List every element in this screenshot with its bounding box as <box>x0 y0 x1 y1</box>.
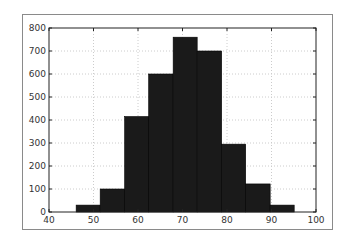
y-tick-label: 800 <box>29 23 46 33</box>
x-tick-label: 50 <box>88 215 100 225</box>
histogram-bar <box>222 144 246 212</box>
histogram-bar <box>246 184 270 212</box>
x-tick-label: 90 <box>266 215 278 225</box>
histogram-bar <box>149 74 173 212</box>
x-tick-label: 60 <box>132 215 144 225</box>
y-tick-label: 300 <box>29 138 46 148</box>
x-axis-tick-labels: 405060708090100 <box>43 215 325 225</box>
y-tick-label: 600 <box>29 69 46 79</box>
histogram-chart: 405060708090100 010020030040050060070080… <box>0 0 351 244</box>
x-tick-label: 100 <box>307 215 324 225</box>
histogram-bar <box>270 205 294 212</box>
histogram-bar <box>76 205 100 212</box>
histogram-bars <box>76 37 294 212</box>
x-tick-label: 70 <box>177 215 189 225</box>
y-tick-label: 700 <box>29 46 46 56</box>
histogram-bar <box>197 51 221 212</box>
y-tick-label: 500 <box>29 92 46 102</box>
x-tick-label: 80 <box>221 215 233 225</box>
histogram-bar <box>125 117 149 212</box>
y-tick-label: 0 <box>40 207 46 217</box>
y-tick-label: 100 <box>29 184 46 194</box>
y-axis-tick-labels: 0100200300400500600700800 <box>29 23 46 217</box>
y-tick-label: 400 <box>29 115 46 125</box>
histogram-bar <box>100 189 124 212</box>
y-tick-label: 200 <box>29 161 46 171</box>
histogram-bar <box>173 37 197 212</box>
